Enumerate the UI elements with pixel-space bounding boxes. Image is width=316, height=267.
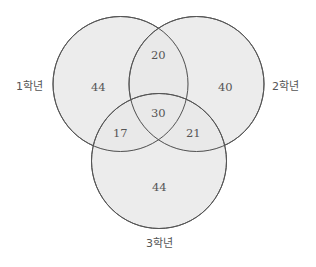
label-grade-2: 2학년 — [272, 80, 299, 93]
count-grade-2-and-3: 21 — [186, 126, 201, 140]
count-grade-1-and-3: 17 — [113, 126, 128, 140]
count-only-grade-2: 40 — [218, 80, 233, 94]
count-only-grade-1: 44 — [91, 80, 106, 94]
venn-diagram: 1학년 2학년 3학년 44 40 44 20 17 21 30 — [0, 0, 316, 267]
label-grade-1: 1학년 — [16, 80, 43, 93]
count-grade-1-and-2: 20 — [151, 48, 166, 62]
count-only-grade-3: 44 — [152, 180, 167, 194]
count-all-three-grades: 30 — [151, 106, 166, 120]
label-grade-3: 3학년 — [146, 237, 173, 250]
